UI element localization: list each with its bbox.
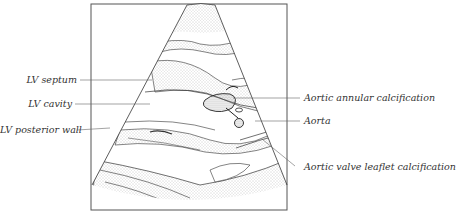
label-aorta: Aorta	[304, 115, 331, 127]
ultrasound-sector	[92, 0, 287, 215]
label-lv-posterior-wall: LV posterior wall	[0, 124, 75, 136]
label-lv-septum: LV septum	[0, 74, 77, 86]
label-aortic-annular-calcification: Aortic annular calcification	[304, 92, 435, 104]
label-lv-cavity: LV cavity	[0, 98, 72, 110]
label-aortic-valve-leaflet-calcification: Aortic valve leaflet calcification	[304, 161, 456, 173]
